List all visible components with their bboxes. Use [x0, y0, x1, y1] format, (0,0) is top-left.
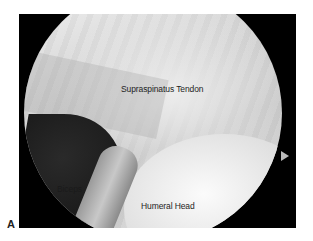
label-biceps: Biceps [57, 184, 82, 194]
scope-notch-marker [281, 151, 289, 161]
label-humeral-head: Humeral Head [141, 201, 195, 211]
label-supraspinatus-tendon: Supraspinatus Tendon [121, 84, 203, 94]
panel-label: A [7, 218, 15, 230]
arthroscopic-image-frame: Supraspinatus Tendon Humeral Head Biceps [19, 14, 296, 228]
humeral-head-region [124, 134, 282, 228]
arthroscope-view [24, 14, 282, 228]
